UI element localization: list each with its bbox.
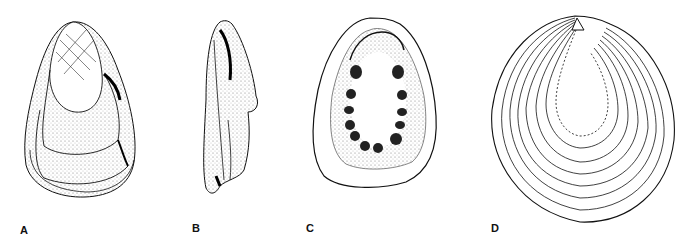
shell-profile-drawing — [180, 0, 280, 249]
panel-label-a: A — [20, 224, 28, 236]
panel-a: A — [0, 0, 180, 249]
panel-b: B — [180, 0, 280, 249]
panel-c: C — [290, 0, 480, 249]
panel-d: D — [480, 0, 692, 249]
shell-outline-drawing — [480, 0, 692, 249]
panel-label-d: D — [491, 222, 499, 234]
panel-label-c: C — [306, 222, 314, 234]
panel-label-b: B — [192, 222, 200, 234]
shell-exterior-drawing — [0, 0, 180, 249]
shell-interior-drawing — [290, 0, 480, 249]
